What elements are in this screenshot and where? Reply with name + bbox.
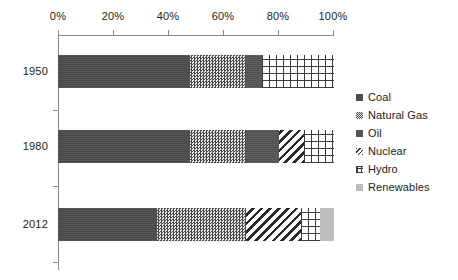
legend-swatch-oil-icon bbox=[356, 130, 363, 137]
y-tick-label-1980: 1980 bbox=[6, 140, 48, 153]
legend-swatch-renewables-icon bbox=[356, 184, 363, 191]
x-tick-80 bbox=[278, 30, 279, 36]
bar-segment-2012-hydro bbox=[301, 208, 320, 241]
bar-segment-2012-natural-gas bbox=[157, 208, 245, 241]
stacked-bar-chart: 0% 20% 40% 60% 80% 100% 1950 1980 2012 bbox=[0, 0, 458, 280]
bar-segment-1950-natural-gas bbox=[190, 55, 245, 88]
legend-label-natural-gas: Natural Gas bbox=[368, 109, 428, 122]
legend-label-coal: Coal bbox=[368, 91, 391, 104]
x-tick-40 bbox=[168, 30, 169, 36]
bar-segment-2012-nuclear bbox=[246, 208, 301, 241]
legend-label-renewables: Renewables bbox=[368, 181, 430, 194]
x-tick-label-60: 60% bbox=[201, 10, 245, 23]
x-tick-label-40: 40% bbox=[146, 10, 190, 23]
y-tick-2 bbox=[53, 186, 59, 187]
legend-swatch-natural-gas-icon bbox=[356, 112, 363, 119]
legend-item-renewables: Renewables bbox=[356, 178, 456, 196]
bar-segment-1950-coal bbox=[58, 55, 190, 88]
x-axis-line bbox=[58, 35, 334, 36]
bar-segment-1980-oil bbox=[246, 130, 279, 163]
legend-swatch-coal-icon bbox=[356, 94, 363, 101]
legend-label-hydro: Hydro bbox=[368, 163, 398, 176]
x-tick-label-80: 80% bbox=[256, 10, 300, 23]
legend-item-oil: Oil bbox=[356, 124, 456, 142]
legend-item-hydro: Hydro bbox=[356, 160, 456, 178]
bar-group-1950 bbox=[58, 55, 334, 88]
legend-item-nuclear: Nuclear bbox=[356, 142, 456, 160]
bar-segment-2012-coal bbox=[58, 208, 157, 241]
x-tick-label-100: 100% bbox=[311, 10, 355, 23]
x-tick-label-0: 0% bbox=[36, 10, 80, 23]
bar-segment-1980-coal bbox=[58, 130, 190, 163]
y-tick-label-2012: 2012 bbox=[6, 218, 48, 231]
legend-item-coal: Coal bbox=[356, 88, 456, 106]
x-tick-100 bbox=[333, 30, 334, 36]
y-tick-1 bbox=[53, 110, 59, 111]
bar-group-1980 bbox=[58, 130, 334, 163]
x-tick-0 bbox=[58, 30, 59, 36]
legend-swatch-nuclear-icon bbox=[356, 148, 363, 155]
legend-label-nuclear: Nuclear bbox=[368, 145, 407, 158]
x-tick-20 bbox=[113, 30, 114, 36]
x-tick-label-20: 20% bbox=[91, 10, 135, 23]
bar-segment-1980-natural-gas bbox=[190, 130, 245, 163]
legend-label-oil: Oil bbox=[368, 127, 382, 140]
bar-segment-1980-hydro bbox=[304, 130, 334, 163]
y-tick-label-1950: 1950 bbox=[6, 65, 48, 78]
bar-segment-1950-hydro bbox=[262, 55, 334, 88]
bar-group-2012 bbox=[58, 208, 334, 241]
x-tick-60 bbox=[223, 30, 224, 36]
y-tick-3 bbox=[53, 262, 59, 263]
bar-segment-1950-oil bbox=[246, 55, 263, 88]
chart-legend: Coal Natural Gas Oil Nuclear Hydro Renew… bbox=[356, 88, 456, 196]
legend-swatch-hydro-icon bbox=[356, 166, 363, 173]
legend-item-natural-gas: Natural Gas bbox=[356, 106, 456, 124]
bar-segment-2012-renewables bbox=[320, 208, 334, 241]
bar-segment-1980-nuclear bbox=[279, 130, 304, 163]
